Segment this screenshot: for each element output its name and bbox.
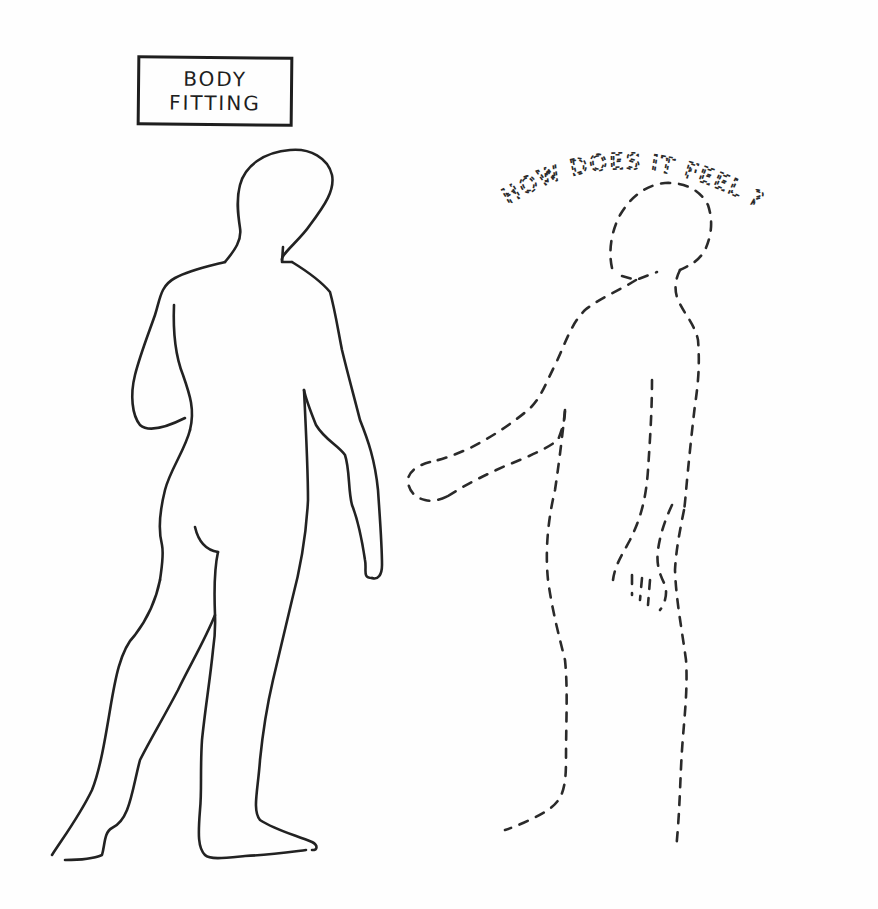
solid-figure-inner-leg — [65, 552, 218, 860]
solid-figure-right-foot — [199, 615, 306, 858]
dashed-figure-inner-arm — [613, 380, 652, 580]
dashed-figure-fingers — [632, 575, 650, 605]
solid-figure-right-forearm — [304, 390, 372, 578]
dashed-figure — [408, 183, 711, 850]
solid-figure-left-torso — [160, 430, 190, 580]
illustration-canvas: BODY FITTING HOW DOES IT FEEL ? — [0, 0, 878, 909]
solid-figure-left-leg — [52, 580, 160, 855]
dashed-figure-head — [610, 183, 711, 270]
dashed-figure-back-lower — [675, 510, 687, 850]
dashed-figure-front — [505, 410, 567, 830]
dashed-figure-back — [676, 270, 699, 510]
solid-figure-head — [225, 150, 333, 262]
dashed-figure-neck — [622, 272, 657, 280]
dashed-figure-arm-bottom — [448, 410, 565, 496]
caption-arc-text: HOW DOES IT FEEL ? — [498, 149, 769, 213]
dashed-figure-hanging-hand — [657, 505, 672, 610]
solid-figure-left-arm — [132, 262, 225, 429]
dashed-figure-arm-top — [430, 280, 636, 462]
dashed-figure-hand — [408, 462, 448, 501]
solid-figure-left-arm-inner — [174, 305, 192, 430]
solid-figure-buttock — [195, 527, 218, 552]
solid-figure — [52, 150, 382, 860]
solid-figure-right-side — [256, 390, 317, 850]
figures-drawing: HOW DOES IT FEEL ? — [0, 0, 878, 909]
caption-arc-path: HOW DOES IT FEEL ? — [498, 149, 769, 213]
